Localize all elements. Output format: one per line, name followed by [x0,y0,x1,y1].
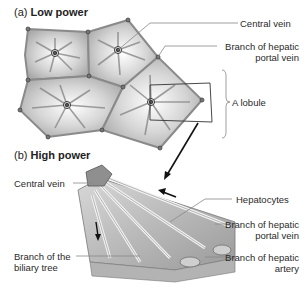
label-portal-vein-b-line1: Branch of hepatic [225,219,299,230]
panel-b-title-text: High power [31,149,91,161]
panel-b-title: (b) High power [14,149,90,161]
label-hepatic-artery: Branch of hepatic artery [225,252,299,274]
label-biliary-line2: biliary tree [14,262,71,273]
label-lobule: A lobule [232,97,266,108]
label-artery-line2: artery [225,263,299,274]
arrow-down-icon [164,171,171,180]
label-portal-vein-a-line1: Branch of hepatic [225,41,299,52]
panel-b-prefix: (b) [14,149,27,161]
panel-a-title-text: Low power [31,6,88,18]
label-portal-vein-a-line2: portal vein [225,52,299,63]
label-central-vein-b: Central vein [14,178,65,189]
arrow-left-icon [158,188,166,195]
label-biliary-tree: Branch of the biliary tree [14,251,71,273]
label-biliary-line1: Branch of the [14,251,71,262]
label-artery-line1: Branch of hepatic [225,252,299,263]
high-power-section [78,165,235,282]
label-portal-vein-b-line2: portal vein [225,230,299,241]
label-portal-vein-a: Branch of hepatic portal vein [225,41,299,63]
label-hepatocytes: Hepatocytes [236,194,289,205]
panel-a-prefix: (a) [14,6,27,18]
label-central-vein-a: Central vein [240,18,291,29]
label-portal-vein-b: Branch of hepatic portal vein [225,219,299,241]
panel-a-title: (a) Low power [14,6,88,18]
lobule-bracket [222,70,230,138]
